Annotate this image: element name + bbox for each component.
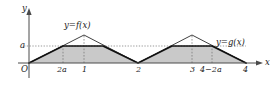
curve-label-g: y=g(x) — [216, 38, 245, 47]
y-axis-label: y — [22, 4, 27, 13]
x-tick-2: 2 — [136, 66, 141, 74]
x-axis-arrowhead — [256, 60, 263, 65]
x-tick-4-minus-2a: 4−2a — [200, 66, 222, 74]
level-a-label: a — [20, 41, 25, 50]
origin-label: O — [21, 65, 28, 74]
math-figure: y x O a y=f(x) y=g(x) 2a 1 2 3 4−2a 4 — [0, 0, 275, 85]
shaded-area-under-g — [29, 46, 246, 63]
x-tick-1: 1 — [82, 66, 87, 74]
x-tick-3: 3 — [190, 66, 195, 74]
y-axis-arrowhead — [26, 8, 31, 15]
x-axis-label: x — [265, 58, 270, 67]
x-tick-2a: 2a — [57, 66, 67, 74]
x-tick-4: 4 — [243, 66, 248, 74]
curve-label-f: y=f(x) — [64, 21, 91, 30]
